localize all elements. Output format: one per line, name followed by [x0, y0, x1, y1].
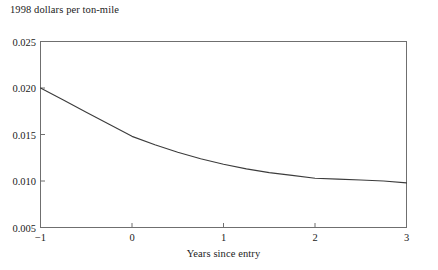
x-axis-tick-label: −1: [26, 232, 56, 243]
x-axis-tick-labels: −10123: [0, 232, 438, 248]
y-axis-tick-label: 0.010: [0, 176, 36, 187]
x-axis-tick-label: 2: [300, 232, 330, 243]
x-axis-tick-label: 3: [392, 232, 422, 243]
x-axis-tick-label: 1: [209, 232, 239, 243]
y-axis-tick-label: 0.015: [0, 129, 36, 140]
y-axis-tick-label: 0.025: [0, 36, 36, 47]
figure-line-chart: 1998 dollars per ton-mile 0.0050.0100.01…: [0, 0, 438, 270]
x-axis-tick-label: 0: [117, 232, 147, 243]
plot-frame: [40, 41, 407, 228]
x-axis-title: Years since entry: [40, 247, 407, 260]
y-axis-tick-label: 0.020: [0, 83, 36, 94]
y-axis-tick-labels: 0.0050.0100.0150.0200.025: [0, 0, 36, 270]
